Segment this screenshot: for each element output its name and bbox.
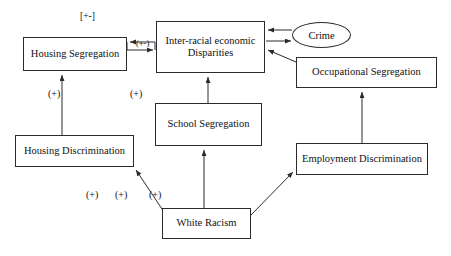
node-interracial-line1: Inter-racial economic [166, 35, 256, 46]
edge-label-plus-white-racism-a: (+) [86, 189, 98, 200]
node-interracial-line2: Disparities [188, 47, 234, 58]
node-employment-discrimination[interactable]: Employment Discrimination [296, 143, 428, 175]
node-occupational-segregation[interactable]: Occupational Segregation [296, 57, 437, 88]
edge-white-racism-to-employment [251, 172, 293, 215]
node-white-racism[interactable]: White Racism [162, 208, 251, 239]
node-school-segregation-label: School Segregation [165, 118, 253, 130]
node-housing-segregation-label: Housing Segregation [28, 48, 122, 60]
edge-label-plus-white-racism-b: (+) [115, 189, 127, 200]
edge-label-plus-housing-discrimination: (+) [48, 88, 60, 99]
node-employment-discrimination-label: Employment Discrimination [299, 153, 425, 165]
edge-label-housing-interracial: (+-) [136, 38, 149, 48]
node-housing-discrimination[interactable]: Housing Discrimination [15, 135, 134, 167]
node-interracial-economic-disparities[interactable]: Inter-racial economic Disparities [156, 21, 265, 73]
edge-label-plus-school-segregation: (+) [130, 88, 142, 99]
node-crime-label: Crime [305, 30, 337, 41]
node-housing-segregation[interactable]: Housing Segregation [23, 37, 127, 71]
node-crime[interactable]: Crime [292, 22, 351, 48]
node-school-segregation[interactable]: School Segregation [155, 103, 262, 146]
node-white-racism-label: White Racism [174, 217, 240, 229]
node-interracial-label: Inter-racial economic Disparities [163, 35, 259, 59]
node-occupational-segregation-label: Occupational Segregation [309, 66, 424, 78]
node-housing-discrimination-label: Housing Discrimination [21, 145, 128, 157]
causal-diagram-canvas: Housing Segregation Inter-racial economi… [0, 0, 451, 256]
edge-label-plus-white-racism-c: (+) [149, 189, 161, 200]
edge-occupational-to-interracial [268, 50, 296, 62]
edge-label-top-bracket: [+-] [80, 11, 95, 21]
